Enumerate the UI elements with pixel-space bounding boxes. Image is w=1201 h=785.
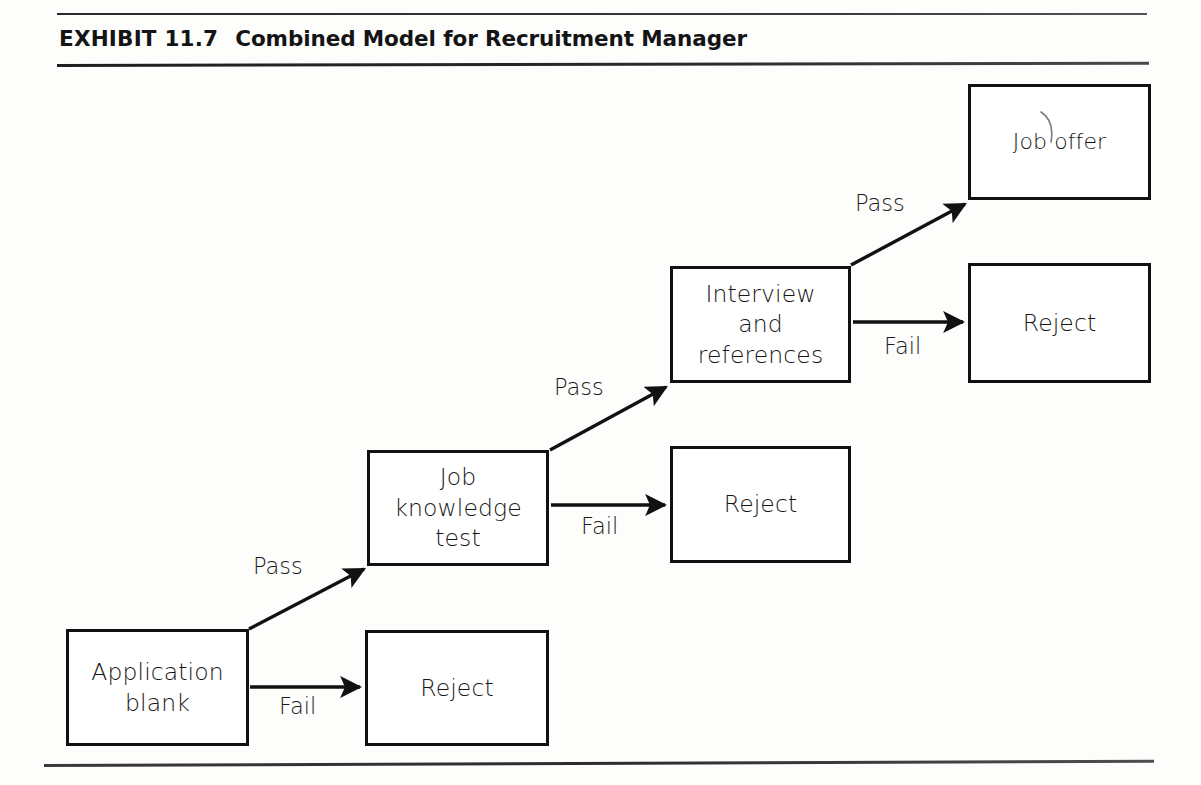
edge-label-pass-jobtest: Pass — [554, 374, 604, 400]
edge-label-fail-application: Fail — [279, 693, 316, 719]
exhibit-page: EXHIBIT 11.7Combined Model for Recruitme… — [0, 0, 1201, 785]
node-label: Job offer — [1013, 128, 1106, 157]
node-label: Applicationblank — [91, 657, 223, 718]
node-job-offer: Job offer — [968, 84, 1151, 200]
header-rule-under-title — [57, 62, 1149, 67]
edge-label-fail-jobtest: Fail — [581, 513, 618, 539]
node-label: Reject — [1023, 308, 1096, 339]
edge-label-fail-interview: Fail — [884, 333, 921, 359]
node-job-knowledge-test: Jobknowledgetest — [367, 450, 549, 566]
edge-label-pass-interview: Pass — [855, 190, 905, 216]
node-reject-interview: Reject — [968, 263, 1151, 383]
node-label: Reject — [420, 673, 493, 704]
node-label: Interviewandreferences — [698, 279, 823, 371]
node-reject-job-test: Reject — [670, 446, 851, 563]
header-rule-top — [57, 13, 1147, 15]
node-application-blank: Applicationblank — [66, 629, 249, 746]
exhibit-number: EXHIBIT 11.7 — [59, 26, 218, 51]
edge-label-pass-application: Pass — [253, 553, 303, 579]
node-label: Reject — [724, 489, 797, 520]
footer-rule — [44, 760, 1154, 767]
node-reject-application: Reject — [365, 630, 549, 746]
node-label: Jobknowledgetest — [394, 462, 521, 554]
page-title: EXHIBIT 11.7Combined Model for Recruitme… — [59, 26, 747, 51]
node-interview-and-references: Interviewandreferences — [670, 266, 851, 383]
exhibit-title-text: Combined Model for Recruitment Manager — [235, 26, 747, 51]
